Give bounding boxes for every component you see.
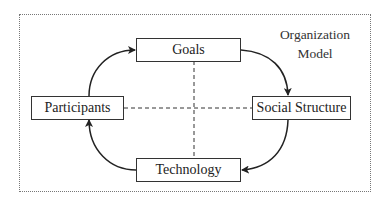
node-technology: Technology xyxy=(136,158,241,182)
node-social-structure: Social Structure xyxy=(252,96,351,120)
title-line-2: Model xyxy=(270,44,360,63)
arrow-participants-to-goals xyxy=(89,50,135,96)
node-goals: Goals xyxy=(136,38,241,62)
title-line-1: Organization xyxy=(270,25,360,44)
arrow-technology-to-participants xyxy=(89,120,136,170)
arrow-social-to-technology xyxy=(242,120,288,170)
diagram-title: Organization Model xyxy=(270,25,360,63)
node-participants: Participants xyxy=(31,96,124,120)
